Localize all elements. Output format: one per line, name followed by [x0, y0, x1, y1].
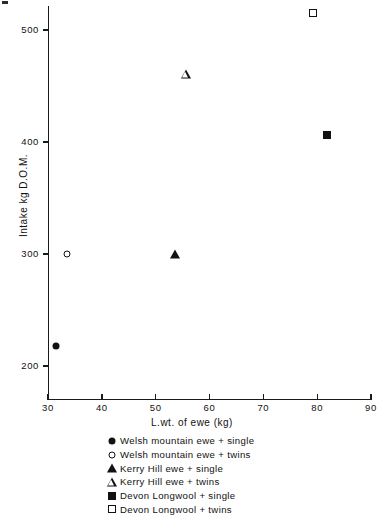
y-tick-label: 200 [0, 361, 39, 371]
x-tick-mark [370, 394, 371, 400]
legend-marker-icon [104, 448, 120, 462]
chart-legend: Welsh mountain ewe + singleWelsh mountai… [104, 434, 364, 516]
legend-item-label: Welsh mountain ewe + twins [120, 449, 251, 460]
y-tick-mark [43, 29, 49, 30]
data-point-open-triangle [181, 69, 191, 78]
legend-item-label: Kerry Hill ewe + twins [120, 476, 220, 487]
x-tick-label: 60 [190, 403, 230, 413]
y-tick-mark [43, 253, 49, 254]
legend-item-label: Devon Longwool + twins [120, 504, 232, 515]
data-point-filled-square [323, 131, 331, 139]
legend-item: Welsh mountain ewe + single [104, 434, 364, 448]
y-tick-label: 500 [0, 25, 39, 35]
data-point-filled-triangle [170, 250, 180, 259]
legend-item: Devon Longwool + single [104, 489, 364, 503]
x-tick-label: 90 [351, 403, 384, 413]
x-tick-mark [101, 394, 102, 400]
legend-symbol-glyph [109, 438, 116, 445]
x-tick-label: 80 [297, 403, 337, 413]
legend-marker-icon [104, 475, 120, 489]
x-tick-mark [155, 394, 156, 400]
legend-item: Kerry Hill ewe + single [104, 461, 364, 475]
data-point-filled-circle [53, 342, 60, 349]
legend-symbol-glyph [108, 505, 116, 513]
data-point-open-square [309, 9, 317, 17]
legend-item-label: Devon Longwool + single [120, 490, 236, 501]
data-points-layer [0, 0, 384, 9]
legend-marker-icon [104, 434, 120, 448]
x-tick-label: 50 [136, 403, 176, 413]
x-tick-mark [209, 394, 210, 400]
x-tick-mark [317, 394, 318, 400]
data-point-open-circle [63, 251, 70, 258]
legend-item-label: Welsh mountain ewe + single [120, 435, 254, 446]
legend-item: Devon Longwool + twins [104, 502, 364, 516]
legend-item-label: Kerry Hill ewe + single [120, 463, 223, 474]
legend-symbol-glyph [107, 464, 117, 473]
scan-artifact-speck [2, 1, 8, 4]
scatter-chart-figure: 200300400500 30405060708090 Intake kg D.… [0, 0, 384, 521]
legend-symbol-glyph [108, 492, 116, 500]
x-tick-mark [47, 394, 48, 400]
y-axis-line [48, 6, 49, 400]
legend-item: Welsh mountain ewe + twins [104, 448, 364, 462]
x-tick-label: 40 [82, 403, 122, 413]
x-tick-label: 30 [28, 403, 68, 413]
y-tick-mark [43, 141, 49, 142]
x-tick-mark [263, 394, 264, 400]
legend-marker-icon [104, 461, 120, 475]
x-axis-title: L.wt. of ewe (kg) [0, 417, 384, 428]
x-tick-label: 70 [243, 403, 283, 413]
y-axis-title: Intake kg D.O.M. [18, 126, 29, 266]
legend-symbol-glyph [109, 451, 116, 458]
legend-symbol-glyph [107, 478, 117, 487]
legend-item: Kerry Hill ewe + twins [104, 475, 364, 489]
legend-marker-icon [104, 502, 120, 516]
y-tick-mark [43, 365, 49, 366]
legend-marker-icon [104, 489, 120, 503]
